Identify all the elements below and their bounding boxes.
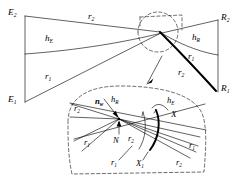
- label-receiver-bottom: R1: [221, 84, 229, 93]
- label-receiver-height: hR: [192, 33, 200, 42]
- label-inset-ray-right-upper: r1: [189, 141, 195, 150]
- x-leader-line: [152, 104, 168, 110]
- figure-canvas: E2 E1 R2 R1 r2 hE r1 hR r1 r2 r2 r1 nw N…: [0, 0, 239, 185]
- inset-leader-line: [147, 56, 162, 84]
- label-inset-receiver-height: hR: [111, 95, 119, 104]
- label-inset-emitter-height: hE: [167, 96, 175, 105]
- inset-ray-left-2: [70, 117, 119, 119]
- label-ray-right-upper: r1: [188, 52, 194, 61]
- ray-to-receiver-top: [162, 20, 218, 33]
- arc-tick-1: [142, 112, 143, 116]
- label-ray-right-lower: r2: [178, 68, 184, 77]
- label-emitter-top: E2: [8, 8, 16, 17]
- diagram-vector-layer: [0, 0, 239, 185]
- label-normal-vector: nw: [95, 97, 103, 106]
- inset-r1-leader: [119, 146, 132, 160]
- label-inset-ray-left-lower: r1: [84, 138, 90, 147]
- node-highlight-bracket: [140, 15, 182, 30]
- label-ray-r1-bottom: r1: [45, 72, 51, 81]
- ray-r1-lower-path: [25, 33, 161, 102]
- node-label-arrowhead: [117, 120, 122, 126]
- inset-hE-chord: [70, 103, 206, 130]
- label-inset-ray-left-upper: r2: [74, 104, 80, 113]
- ray-to-receiver-bottom-edge2: [159, 31, 215, 90]
- label-surface-patch-sub: X1: [136, 159, 144, 168]
- label-receiver-top: R2: [221, 13, 229, 22]
- label-inset-ray-center-lower: r1: [111, 158, 117, 167]
- label-ray-r2-top: r2: [88, 12, 94, 21]
- label-emitter-bottom: E1: [8, 95, 16, 104]
- label-inset-ray-center-upper: r2: [128, 134, 134, 143]
- label-node: N: [113, 136, 119, 145]
- label-emitter-height: hE: [45, 34, 53, 43]
- label-surface-patch: X: [171, 110, 177, 119]
- inset-leader-arrowhead: [147, 79, 153, 84]
- label-inset-ray-right-lower: r2: [176, 158, 182, 167]
